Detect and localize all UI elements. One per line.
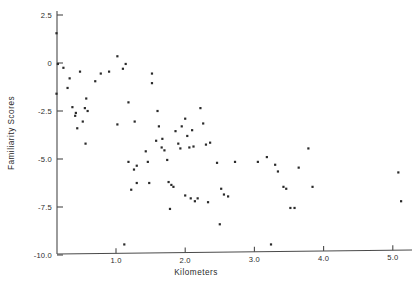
data-point [87,110,89,112]
data-point [116,123,118,125]
data-point [190,197,192,199]
data-point [79,71,81,73]
data-point [166,159,168,161]
data-point [55,93,57,95]
data-point [136,182,138,184]
data-point [116,55,118,57]
data-point [177,143,179,145]
data-point [85,97,87,99]
data-point [76,127,78,129]
data-point [136,165,138,167]
data-point [307,147,309,149]
data-point [148,182,150,184]
data-point [74,115,76,117]
data-point [266,156,268,158]
data-point [191,129,193,131]
data-point [151,82,153,84]
data-point [179,147,181,149]
y-axis-title: Familiarity Scores [7,96,16,170]
data-point [147,161,149,163]
data-point [205,144,207,146]
data-point [123,243,125,245]
data-point [188,146,190,148]
y-tick-label: 0 [48,59,52,68]
data-point [122,68,124,70]
x-tick-label: 1.0 [110,256,121,265]
data-point [156,110,158,112]
data-point [69,77,71,79]
data-point [55,32,57,34]
y-axis-ticks: 2.50-2.5-5.0-7.5-10.0 [34,11,63,260]
data-points-group [55,32,402,245]
data-point [82,120,84,122]
data-point [186,135,188,137]
data-point [100,72,102,74]
data-point [62,67,64,69]
y-tick-label: 2.5 [41,11,52,20]
data-point [274,164,276,166]
data-point [197,197,199,199]
data-point [75,112,77,114]
data-point [127,101,129,103]
data-point [84,143,86,145]
data-point [277,170,279,172]
data-point [257,161,259,163]
data-point [125,63,127,65]
data-point [216,162,218,164]
data-point [282,186,284,188]
y-tick-label: -10.0 [34,251,52,260]
x-axis-title: Kilometers [174,268,218,277]
data-point [400,200,402,202]
data-point [202,122,204,124]
data-point [94,80,96,82]
data-point [199,107,201,109]
data-point [194,200,196,202]
data-point [133,168,135,170]
data-point [163,149,165,151]
data-point [219,223,221,225]
data-point [285,188,287,190]
data-point [158,125,160,127]
data-point [130,189,132,191]
data-point [289,207,291,209]
data-point [184,118,186,120]
data-point [134,120,136,122]
data-point [293,207,295,209]
data-point [207,201,209,203]
y-tick-label: -5.0 [38,155,52,164]
data-point [161,146,163,148]
data-point [181,125,183,127]
data-point [311,186,313,188]
data-point [167,181,169,183]
data-point [270,243,272,245]
data-point [223,193,225,195]
data-point [84,107,86,109]
data-point [145,150,147,152]
data-point [184,194,186,196]
data-point [161,138,163,140]
x-tick-label: 4.0 [318,254,329,263]
data-point [227,195,229,197]
data-point [397,171,399,173]
x-axis-line [57,250,412,254]
data-point [172,186,174,188]
data-point [234,161,236,163]
data-point [169,208,171,210]
data-point [174,130,176,132]
scatter-plot-figure: 2.50-2.5-5.0-7.5-10.0 1.02.03.04.05.0 Ki… [0,0,419,283]
x-tick-label: 3.0 [249,255,260,264]
data-point [151,72,153,74]
data-point [170,184,172,186]
data-point [155,140,157,142]
y-tick-label: -7.5 [38,203,52,212]
data-point [57,63,59,65]
data-point [209,142,211,144]
y-tick-label: -2.5 [38,107,52,116]
x-axis-ticks: 1.02.03.04.05.0 [110,245,398,265]
x-tick-label: 5.0 [387,253,398,262]
axes-group [57,11,412,254]
data-point [192,145,194,147]
data-point [108,71,110,73]
x-tick-label: 2.0 [180,256,191,265]
data-point [66,87,68,89]
